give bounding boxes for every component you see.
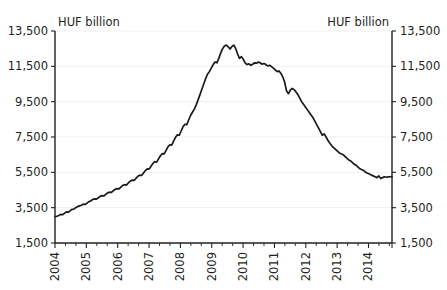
y-axis-label-right: 1,500 [400, 236, 433, 250]
x-axis-label: 2006 [111, 252, 125, 281]
unit-label-left: HUF billion [58, 15, 120, 29]
chart-background [0, 0, 447, 290]
x-axis-label: 2009 [205, 252, 219, 281]
x-axis-label: 2013 [330, 252, 344, 281]
y-axis-label-right: 13,500 [400, 24, 440, 38]
y-axis-label-right: 3,500 [400, 201, 433, 215]
x-axis-label: 2012 [299, 252, 313, 281]
x-axis-label: 2004 [48, 252, 62, 281]
unit-label-right: HUF billion [327, 15, 389, 29]
y-axis-label-right: 11,500 [400, 59, 440, 73]
y-axis-label-right: 7,500 [400, 130, 433, 144]
y-axis-label-left: 13,500 [8, 24, 48, 38]
x-axis-label: 2008 [173, 252, 187, 281]
y-axis-label-left: 3,500 [15, 201, 48, 215]
y-axis-label-left: 11,500 [8, 59, 48, 73]
y-axis-label-right: 9,500 [400, 95, 433, 109]
y-axis-label-right: 5,500 [400, 165, 433, 179]
x-axis-label: 2007 [142, 252, 156, 281]
y-axis-label-left: 5,500 [15, 165, 48, 179]
chart-container: 1,5003,5005,5007,5009,50011,50013,500 1,… [0, 0, 447, 290]
line-chart: 1,5003,5005,5007,5009,50011,50013,500 1,… [0, 0, 447, 290]
y-axis-label-left: 9,500 [15, 95, 48, 109]
x-axis-label: 2010 [236, 252, 250, 281]
x-axis-label: 2011 [267, 252, 281, 281]
y-axis-label-left: 7,500 [15, 130, 48, 144]
x-axis-label: 2014 [361, 252, 375, 281]
x-axis-label: 2005 [79, 252, 93, 281]
y-axis-label-left: 1,500 [15, 236, 48, 250]
